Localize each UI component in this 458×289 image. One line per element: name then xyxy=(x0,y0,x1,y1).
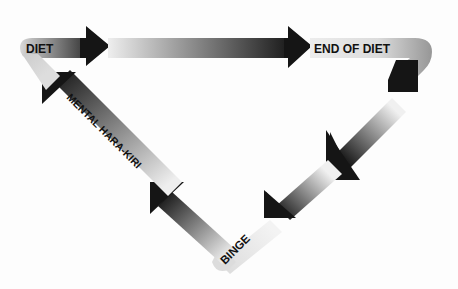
diet-cycle-diagram: DIET END OF DIET BINGE MENTAL HARA-KIRI xyxy=(0,0,458,289)
label-mental-hara-kiri: MENTAL HARA-KIRI xyxy=(65,91,145,171)
label-diet: DIET xyxy=(26,42,54,56)
label-end-of-diet: END OF DIET xyxy=(314,42,391,56)
